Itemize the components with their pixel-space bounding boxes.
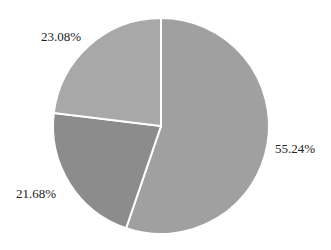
slice-label-1: 21.68% [16,186,56,202]
slice-label-0: 55.24% [275,141,315,157]
slice-label-2: 23.08% [41,29,81,45]
